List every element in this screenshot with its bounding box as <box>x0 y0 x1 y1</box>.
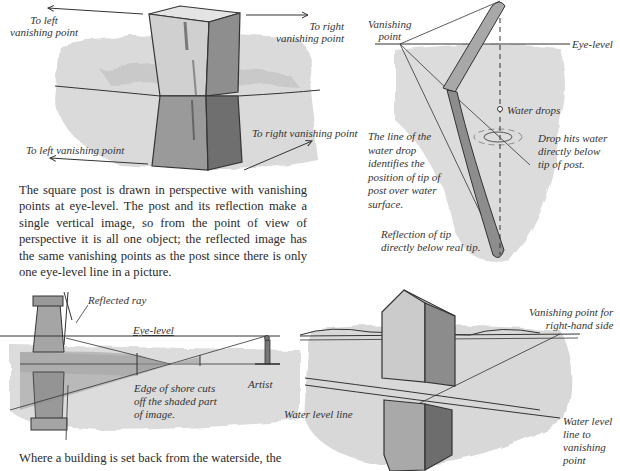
label-line: directly below real tip. <box>381 241 480 254</box>
windmill-label-reflected-ray: Reflected ray <box>88 294 146 306</box>
label-line: water drop <box>368 144 440 158</box>
label-line: post over water <box>368 184 440 198</box>
label-line: The line of the <box>368 130 440 144</box>
label-line: line to <box>563 428 612 441</box>
label-line: identifies the <box>368 157 440 171</box>
label-line: surface. <box>368 198 440 212</box>
label-line: vanishing point <box>276 32 344 44</box>
label-line: of image. <box>134 408 217 421</box>
label-line: off the shaded part <box>134 395 217 408</box>
label-line: vanishing point <box>10 26 78 38</box>
house-label-vp-right: Vanishing point for right-hand side <box>529 306 613 332</box>
pole-label-line-of-drop: The line of the water drop identifies th… <box>368 130 440 211</box>
label-line: Water level <box>563 415 612 428</box>
label-line: directly below <box>538 145 607 158</box>
windmill-label-eye-level: Eye-level <box>133 324 174 336</box>
label-line: tip of post. <box>538 158 607 171</box>
label-line: point <box>563 454 612 467</box>
label-line: Drop hits water <box>538 132 607 145</box>
house-label-water-level: Water level line <box>284 408 353 420</box>
post-label-right-vp-bottom: To right vanishing point <box>252 127 358 139</box>
label-line: To left <box>10 14 78 26</box>
label-line: Vanishing point for <box>529 306 613 319</box>
label-line: Vanishing <box>368 18 411 30</box>
pole-label-drop-hits: Drop hits water directly below tip of po… <box>538 132 607 171</box>
post-caption: The square post is drawn in perspective … <box>19 182 307 280</box>
label-line: To right <box>276 20 344 32</box>
pole-label-water-drops: Water drops <box>507 104 560 116</box>
windmill-label-shore: Edge of shore cuts off the shaded part o… <box>134 382 217 421</box>
post-label-left-vp-bottom: To left vanishing point <box>26 144 124 156</box>
windmill-label-artist: Artist <box>248 378 272 390</box>
label-line: vanishing <box>563 441 612 454</box>
post-label-right-vp-top: To right vanishing point <box>276 20 344 44</box>
post-label-left-vp-top: To left vanishing point <box>10 14 78 38</box>
label-line: position of tip of <box>368 171 440 185</box>
house-label-water-level-vp: Water level line to vanishing point <box>563 415 612 467</box>
pole-label-reflection-tip: Reflection of tip directly below real ti… <box>381 228 480 254</box>
label-line: point <box>368 30 411 42</box>
label-line: right-hand side <box>529 319 613 332</box>
pole-label-eye-level: Eye-level <box>572 38 613 50</box>
label-line: Edge of shore cuts <box>134 382 217 395</box>
windmill-caption: Where a building is set back from the wa… <box>19 450 319 466</box>
pole-label-vanishing-point: Vanishing point <box>368 18 411 42</box>
label-line: Reflection of tip <box>381 228 480 241</box>
